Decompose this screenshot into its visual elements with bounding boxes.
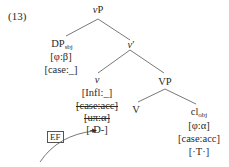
node-v-head: v — [95, 74, 100, 86]
dp-feature-phi: [φ:β] — [50, 51, 71, 63]
node-vp: VP — [158, 76, 171, 88]
v-feature-d: [-D-] — [86, 124, 108, 136]
node-vP: vP — [93, 4, 104, 16]
ef-box: EF — [47, 131, 64, 143]
v-feature-case-struck: [case:acc] — [76, 100, 118, 112]
v-feature-infl: [Infl:_] — [82, 87, 112, 99]
node-verb: V — [132, 104, 140, 116]
cl-feature-phi: [φ:α] — [188, 120, 209, 132]
cl-feature-t: [·T·] — [189, 146, 209, 158]
v-feature-upi-struck: [uπ:α] — [84, 112, 110, 124]
dp-feature-case: [case:_] — [44, 64, 77, 76]
cl-feature-case: [case:acc] — [178, 133, 220, 145]
node-v-bar: v′ — [128, 39, 135, 51]
node-clitic-object: clobj — [191, 106, 208, 121]
